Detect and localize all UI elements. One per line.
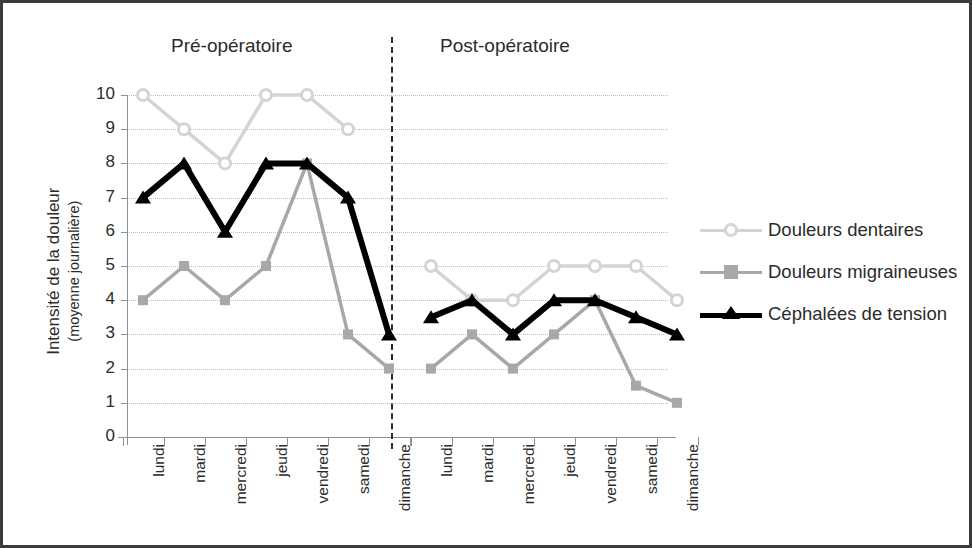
y-tick <box>121 129 128 130</box>
data-point-marker <box>426 261 437 272</box>
data-point-marker <box>590 261 601 272</box>
data-point-marker <box>508 295 519 306</box>
legend-swatch <box>700 220 762 240</box>
data-point-marker <box>138 90 149 101</box>
data-point-marker <box>343 124 354 135</box>
data-point-marker <box>261 261 271 271</box>
legend-label: Céphalées de tension <box>762 303 947 325</box>
series-triangle-line <box>143 163 389 334</box>
legend-swatch <box>700 262 762 282</box>
data-point-marker <box>179 124 190 135</box>
data-point-marker <box>220 158 231 169</box>
y-tick <box>121 334 128 335</box>
y-tick <box>121 369 128 370</box>
data-point-marker <box>549 329 559 339</box>
y-tick <box>121 198 128 199</box>
y-tick <box>121 266 128 267</box>
data-point-marker <box>426 364 436 374</box>
y-tick <box>121 403 128 404</box>
y-tick <box>121 232 128 233</box>
data-point-marker <box>261 90 272 101</box>
data-point-marker <box>176 156 192 169</box>
y-tick <box>121 437 128 438</box>
legend-item[interactable]: Douleurs migraineuses <box>700 251 968 293</box>
data-point-marker <box>381 327 397 340</box>
legend: Douleurs dentairesDouleurs migraineusesC… <box>700 209 968 335</box>
y-tick <box>121 163 128 164</box>
data-point-marker <box>179 261 189 271</box>
y-tick <box>121 95 128 96</box>
data-point-marker <box>302 90 313 101</box>
legend-label: Douleurs dentaires <box>762 219 923 241</box>
data-point-marker <box>549 261 560 272</box>
legend-item[interactable]: Douleurs dentaires <box>700 209 968 251</box>
data-point-marker <box>508 364 518 374</box>
data-point-marker <box>343 329 353 339</box>
legend-marker-circle-icon <box>724 223 738 237</box>
legend-marker-square-icon <box>724 265 738 279</box>
data-point-marker <box>384 364 394 374</box>
legend-swatch <box>700 304 762 324</box>
legend-item[interactable]: Céphalées de tension <box>700 293 968 335</box>
data-point-marker <box>467 329 477 339</box>
y-tick <box>121 300 128 301</box>
data-point-marker <box>672 398 682 408</box>
series-circle-line <box>143 95 348 163</box>
data-point-marker <box>631 381 641 391</box>
legend-label: Douleurs migraineuses <box>762 261 957 283</box>
data-point-marker <box>672 295 683 306</box>
legend-marker-triangle-icon <box>722 306 740 319</box>
chart-figure: Pré-opératoire Post-opératoire Intensité… <box>0 0 972 548</box>
data-point-marker <box>138 295 148 305</box>
data-point-marker <box>220 295 230 305</box>
data-point-marker <box>631 261 642 272</box>
